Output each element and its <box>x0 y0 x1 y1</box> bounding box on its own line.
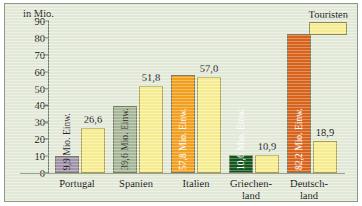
bar-population-griechenland <box>229 155 253 173</box>
y-tick-label-40: 40 <box>35 100 46 111</box>
bar-population-italien <box>171 75 195 173</box>
plot-area: 90807060504030201009,9 Mio. Einw.26,639,… <box>49 21 333 173</box>
bar-tourists-portugal <box>81 128 105 173</box>
bar-tourists-value-label: 26,6 <box>84 114 102 125</box>
bar-tourists-value-label: 51,8 <box>142 72 160 83</box>
y-tick-label-80: 80 <box>35 32 46 43</box>
bar-tourists-value-label: 18,9 <box>316 127 334 138</box>
bar-tourists-spanien <box>139 86 163 173</box>
y-tick-label-10: 10 <box>35 151 46 162</box>
chart-container: in Mio. Touristen 90807060504030201009,9… <box>4 3 358 202</box>
y-axis-unit-label: in Mio. <box>23 8 54 19</box>
bar-tourists-value-label: 57,0 <box>200 63 218 74</box>
bar-tourists-deutschland <box>313 141 337 173</box>
legend: Touristen <box>308 9 348 35</box>
y-tick-label-30: 30 <box>35 117 46 128</box>
y-tick-label-20: 20 <box>35 134 46 145</box>
bar-population-portugal <box>55 156 79 173</box>
legend-swatch-touristen <box>309 22 347 35</box>
bar-population-deutschland <box>287 34 311 173</box>
bar-population-spanien <box>113 106 137 173</box>
bar-tourists-griechenland <box>255 155 279 173</box>
legend-label-touristen: Touristen <box>308 9 348 20</box>
y-axis-line <box>48 20 49 174</box>
x-label-deutschland: Deutsch- land <box>269 178 349 201</box>
bar-tourists-value-label: 10,9 <box>258 141 276 152</box>
x-axis-line <box>20 173 345 174</box>
y-tick-label-60: 60 <box>35 66 46 77</box>
bar-tourists-italien <box>197 77 221 173</box>
y-tick-label-50: 50 <box>35 83 46 94</box>
y-tick-label-70: 70 <box>35 49 46 60</box>
